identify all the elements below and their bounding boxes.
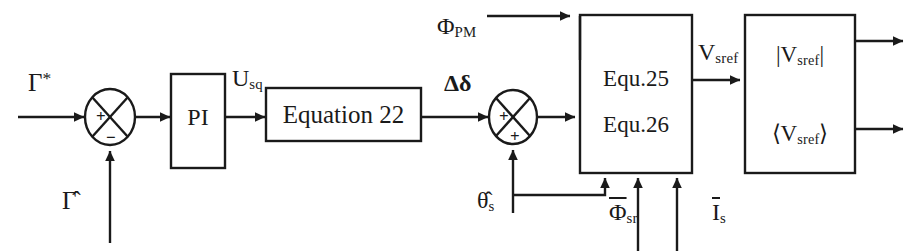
block-label-equ25: Equ.25 bbox=[580, 67, 692, 90]
label-phi-sr-bar: Φsr bbox=[609, 200, 638, 226]
block-label-pi: PI bbox=[171, 105, 225, 129]
sum2-plus-sign-left: + bbox=[499, 108, 509, 125]
block-label-vsref-angle: ⟨Vsref⟩ bbox=[745, 122, 855, 146]
block-label-vsref-magnitude: |Vsref| bbox=[745, 43, 855, 67]
sum1-minus-sign: − bbox=[106, 129, 116, 146]
block-equ2526 bbox=[580, 15, 692, 173]
label-phi-pm: ΦPM bbox=[437, 14, 476, 40]
sum2-plus-sign-bottom: + bbox=[510, 128, 520, 145]
block-label-equation22: Equation 22 bbox=[266, 102, 421, 127]
wire-theta-s-branch bbox=[513, 178, 605, 195]
label-current-s-bar: Is bbox=[712, 200, 726, 226]
label-torque-estimate: Γ̂ bbox=[62, 188, 76, 213]
sum1-plus-sign: + bbox=[96, 108, 106, 125]
label-v-sref: Vsref bbox=[698, 40, 738, 66]
block-label-equ26: Equ.26 bbox=[580, 113, 692, 136]
block-diagram: Γ* Γ̂ + − PI Usq Equation 22 Δδ ΦPM + + … bbox=[0, 0, 923, 251]
label-theta-s-estimate: θ̂s bbox=[477, 188, 495, 214]
label-u-sq: Usq bbox=[232, 66, 263, 92]
label-torque-reference: Γ* bbox=[28, 70, 51, 95]
block-vsref-output bbox=[745, 15, 855, 173]
label-delta-delta: Δδ bbox=[444, 71, 472, 95]
